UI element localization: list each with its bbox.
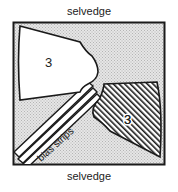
piece-hatched-number: 3 (124, 112, 131, 127)
fabric-layout-diagram: 3 3 3 bias strips (0, 0, 178, 192)
piece-plain-number: 3 (45, 55, 52, 70)
